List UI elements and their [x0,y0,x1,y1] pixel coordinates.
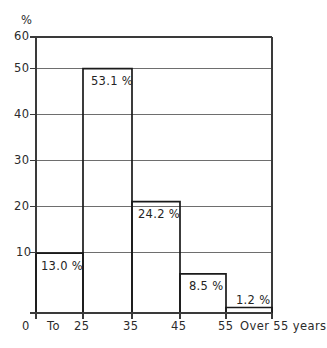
y-axis-ticks [30,37,36,313]
bar-value-label-2: 24.2 % [138,209,180,221]
bar-1-53-1 [83,69,132,313]
bar-4-1-2 [226,308,272,314]
bar-series [36,69,272,313]
bar-value-label-1: 53.1 % [91,76,133,88]
y-tick-label-20: 20 [14,201,29,213]
y-tick-label-60: 60 [14,31,29,43]
x-tick-label-over-55-years: Over 55 years [240,321,326,333]
gridlines [36,69,272,253]
x-axis-ticks [36,313,272,319]
y-axis-unit-label: % [21,15,32,27]
y-tick-label-50: 50 [14,63,29,75]
x-tick-label-55: 55 [218,321,233,333]
bar-value-label-4: 1.2 % [236,295,270,307]
y-tick-label-40: 40 [14,109,29,121]
bar-value-label-0: 13.0 % [41,261,83,273]
x-tick-label-45: 45 [171,321,186,333]
y-tick-label-10: 10 [16,247,31,259]
x-tick-label-35: 35 [123,321,138,333]
x-tick-label-25: 25 [74,321,89,333]
histogram-chart: % 60 50 40 30 20 10 0 To 25 35 45 55 Ove… [0,0,327,348]
y-tick-label-0: 0 [22,321,30,333]
y-tick-label-30: 30 [14,155,29,167]
bar-value-label-3: 8.5 % [189,281,223,293]
chart-canvas [0,0,327,348]
x-tick-label-to: To [47,321,60,333]
